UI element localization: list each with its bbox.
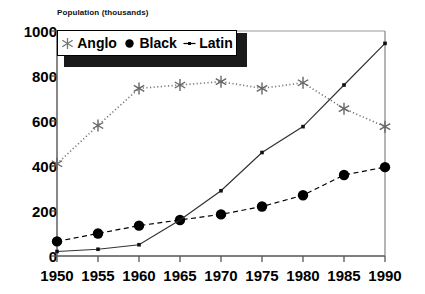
dash-marker-icon xyxy=(183,37,196,50)
series-line xyxy=(57,43,385,251)
data-point xyxy=(383,42,387,46)
data-point xyxy=(380,162,390,172)
data-point xyxy=(298,77,308,89)
data-point xyxy=(52,158,62,170)
data-point xyxy=(175,79,185,91)
population-line-chart: Population (thousands) 1000 800 600 400 … xyxy=(0,0,425,294)
data-point xyxy=(342,83,346,87)
legend-label-latin: Latin xyxy=(199,35,232,51)
data-point xyxy=(339,103,349,115)
data-point xyxy=(216,209,226,219)
circle-marker-icon xyxy=(123,37,136,50)
data-point xyxy=(257,82,267,94)
data-point xyxy=(137,243,141,247)
data-point xyxy=(298,190,308,200)
data-point xyxy=(380,121,390,133)
chart-legend: Anglo Black Latin xyxy=(57,30,237,56)
legend-item-black[interactable]: Black xyxy=(123,35,176,51)
data-point xyxy=(178,218,182,222)
data-point xyxy=(93,228,103,238)
data-point xyxy=(339,170,349,180)
data-point xyxy=(219,189,223,193)
data-point xyxy=(257,201,267,211)
data-point xyxy=(52,236,62,246)
legend-label-black: Black xyxy=(139,35,176,51)
legend-label-anglo: Anglo xyxy=(77,35,117,51)
data-point xyxy=(134,82,144,94)
series-black xyxy=(52,162,390,247)
data-point xyxy=(260,151,264,155)
data-point xyxy=(55,250,59,254)
legend-item-anglo[interactable]: Anglo xyxy=(61,35,117,51)
series-latin xyxy=(55,42,387,254)
data-point xyxy=(301,125,305,129)
data-point xyxy=(96,247,100,251)
asterisk-marker-icon xyxy=(61,37,74,50)
legend-item-latin[interactable]: Latin xyxy=(183,35,232,51)
series-line xyxy=(57,167,385,241)
data-point xyxy=(216,76,226,88)
data-point xyxy=(134,220,144,230)
